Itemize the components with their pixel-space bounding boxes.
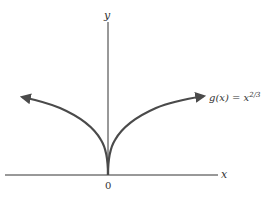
origin-label: 0 (105, 180, 111, 191)
function-label: g(x) = x2/3 (209, 91, 261, 103)
x-axis-label: x (221, 168, 228, 181)
graph: y x 0 g(x) = x2/3 (0, 0, 273, 202)
curve-right-branch (108, 96, 204, 175)
function-label-exponent: 2/3 (248, 91, 261, 99)
function-label-base: g(x) = x (209, 92, 250, 103)
curve-left-branch (22, 97, 108, 175)
y-axis-label: y (103, 9, 111, 22)
